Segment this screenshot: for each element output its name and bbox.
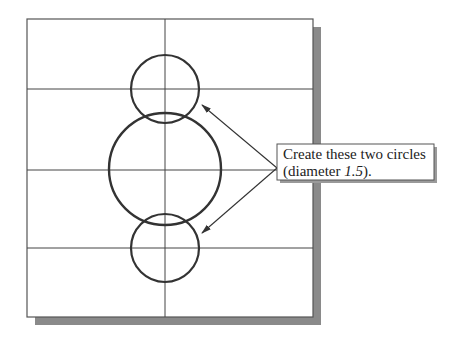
diagram-canvas: Create these two circles (diameter 1.5). xyxy=(0,0,454,340)
callout-diameter-value: 1.5 xyxy=(344,163,363,179)
callout-line-2-suffix: ). xyxy=(363,163,372,180)
drawing-frame xyxy=(27,19,313,317)
callout-line-1: Create these two circles xyxy=(283,146,426,162)
callout-line-2-prefix: (diameter xyxy=(283,163,344,180)
callout-line-2: (diameter 1.5). xyxy=(283,163,372,180)
